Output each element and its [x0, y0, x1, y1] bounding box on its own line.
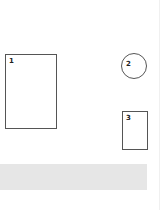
right-edge-divider	[159, 0, 160, 210]
shape-label-3: 3	[126, 114, 131, 122]
shape-rectangle-3: 3	[122, 111, 148, 150]
shape-circle-2: 2	[121, 53, 147, 79]
gray-band	[0, 164, 147, 190]
shape-label-2: 2	[126, 60, 131, 68]
shape-label-1: 1	[9, 57, 14, 65]
shape-rectangle-1: 1	[5, 54, 57, 129]
